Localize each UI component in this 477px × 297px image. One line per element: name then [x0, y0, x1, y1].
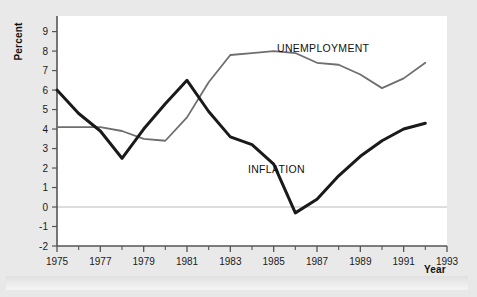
- plot-area: [57, 16, 447, 246]
- series-label-inflation: INFLATION: [248, 163, 305, 175]
- x-axis-tick-label: 1985: [263, 256, 286, 267]
- x-axis-tick-label: 1981: [176, 256, 199, 267]
- x-axis-tick-label: 1987: [306, 256, 329, 267]
- y-axis-tick-label: 9: [42, 26, 48, 37]
- y-axis-tick-label: -2: [39, 241, 48, 252]
- page-shadow-strip: [6, 276, 468, 290]
- y-axis-tick-label: 7: [42, 65, 48, 76]
- y-axis-tick-label: 4: [42, 124, 48, 135]
- y-axis-tick-label: 0: [42, 202, 48, 213]
- y-axis-title: Percent: [13, 12, 24, 72]
- y-axis-tick-label: 8: [42, 46, 48, 57]
- y-axis-tick-label: 1: [42, 182, 48, 193]
- x-axis-tick-label: 1975: [46, 256, 69, 267]
- x-axis-tick-label: 1989: [349, 256, 372, 267]
- figure-panel: 9876543210-1-219751977197919811983198519…: [0, 0, 477, 280]
- x-axis-tick-label: 1983: [219, 256, 242, 267]
- x-axis-tick-label: 1979: [133, 256, 156, 267]
- y-axis-tick-label: 5: [42, 104, 48, 115]
- x-axis-title: Year: [424, 264, 446, 275]
- x-axis-tick-label: 1991: [393, 256, 416, 267]
- y-axis-tick-label: 2: [42, 163, 48, 174]
- y-axis-tick-label: 3: [42, 143, 48, 154]
- y-axis-tick-label: 6: [42, 85, 48, 96]
- series-label-unemployment: UNEMPLOYMENT: [277, 42, 369, 54]
- line-chart: 9876543210-1-219751977197919811983198519…: [0, 0, 477, 280]
- y-axis-tick-label: -1: [39, 221, 48, 232]
- figure-inner: 9876543210-1-219751977197919811983198519…: [0, 0, 477, 280]
- x-axis-tick-label: 1977: [89, 256, 112, 267]
